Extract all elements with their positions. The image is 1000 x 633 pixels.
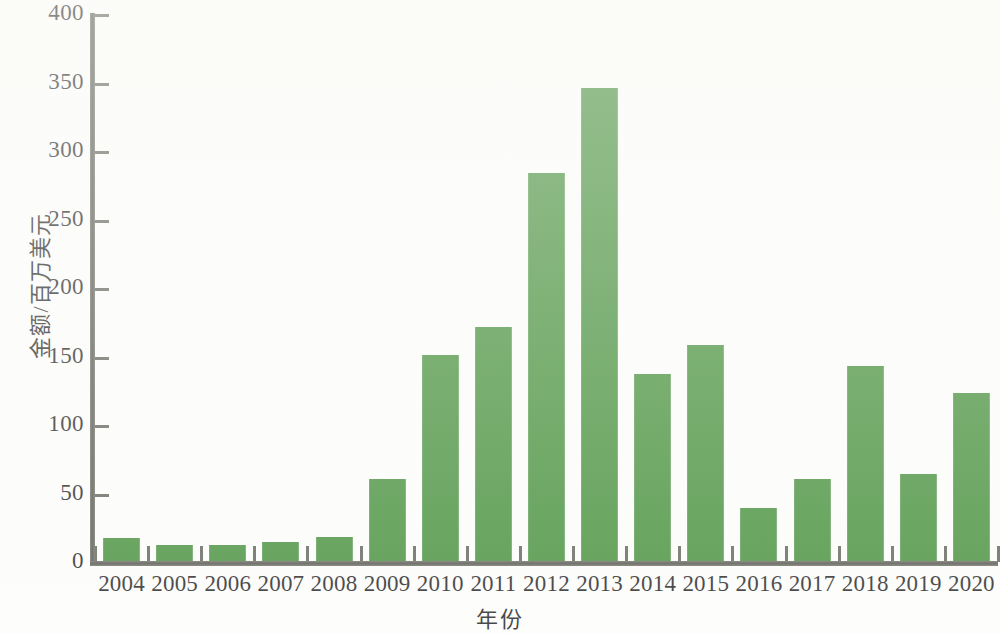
x-tick-13 <box>785 546 788 562</box>
x-axis-label-2013: 2013 <box>573 571 626 597</box>
x-axis-label-2019: 2019 <box>892 571 945 597</box>
bar-2008 <box>316 537 353 563</box>
bar-2017 <box>794 479 831 563</box>
x-axis-label-2014: 2014 <box>626 571 679 597</box>
y-tick-100 <box>95 425 109 428</box>
x-tick-8 <box>519 546 522 562</box>
y-tick-250 <box>95 220 109 223</box>
x-axis-label-2011: 2011 <box>467 571 520 597</box>
y-tick-50 <box>95 494 109 497</box>
y-tick-200 <box>95 288 109 291</box>
bar-2015 <box>687 345 724 563</box>
y-tick-label-slot: 100 <box>14 426 84 427</box>
x-tick-4 <box>306 546 309 562</box>
y-tick-label-slot: 350 <box>14 84 84 85</box>
y-axis-title: 金额/百万美元 <box>22 156 54 416</box>
x-axis-label-2005: 2005 <box>148 571 201 597</box>
y-tick-label-slot: 0 <box>14 563 84 564</box>
y-tick-150 <box>95 357 109 360</box>
x-tick-14 <box>838 546 841 562</box>
bar-2009 <box>369 479 406 563</box>
x-tick-16 <box>944 546 947 562</box>
x-axis-label-2015: 2015 <box>679 571 732 597</box>
bar-2020 <box>953 393 990 563</box>
y-tick-label-400: 400 <box>28 0 84 26</box>
bar-chart: 050100150200250300350400 200420052006200… <box>0 0 1000 633</box>
x-axis-line <box>90 561 998 566</box>
x-axis-label-2017: 2017 <box>786 571 839 597</box>
x-tick-6 <box>413 546 416 562</box>
bar-2018 <box>847 366 884 563</box>
bar-2004 <box>103 538 140 563</box>
y-tick-label-350: 350 <box>28 69 84 95</box>
y-tick-400 <box>95 14 109 17</box>
bar-2012 <box>528 173 565 563</box>
x-axis-label-2020: 2020 <box>945 571 998 597</box>
x-axis-label-2009: 2009 <box>361 571 414 597</box>
x-axis-label-2016: 2016 <box>732 571 785 597</box>
y-tick-label-slot: 300 <box>14 152 84 153</box>
x-axis-label-2008: 2008 <box>307 571 360 597</box>
x-axis-label-2006: 2006 <box>201 571 254 597</box>
x-axis-label-2018: 2018 <box>839 571 892 597</box>
bar-2007 <box>262 542 299 563</box>
x-tick-7 <box>466 546 469 562</box>
x-tick-15 <box>891 546 894 562</box>
x-tick-10 <box>625 546 628 562</box>
x-axis-label-2004: 2004 <box>95 571 148 597</box>
x-axis-label-2010: 2010 <box>414 571 467 597</box>
x-tick-2 <box>200 546 203 562</box>
x-tick-3 <box>253 546 256 562</box>
x-axis-label-2007: 2007 <box>254 571 307 597</box>
x-tick-5 <box>360 546 363 562</box>
y-tick-350 <box>95 83 109 86</box>
y-tick-300 <box>95 151 109 154</box>
bar-2011 <box>475 327 512 563</box>
y-tick-label-slot: 50 <box>14 495 84 496</box>
bar-2010 <box>422 355 459 563</box>
x-axis-title: 年份 <box>0 601 1000 633</box>
bar-2019 <box>900 474 937 563</box>
x-tick-12 <box>731 546 734 562</box>
y-tick-label-0: 0 <box>28 548 84 574</box>
x-tick-11 <box>678 546 681 562</box>
y-tick-label-slot: 400 <box>14 15 84 16</box>
x-axis-label-2012: 2012 <box>520 571 573 597</box>
bar-2013 <box>581 88 618 563</box>
bar-2016 <box>740 508 777 563</box>
y-axis-line <box>90 13 95 566</box>
x-tick-9 <box>572 546 575 562</box>
x-tick-1 <box>147 546 150 562</box>
y-tick-label-50: 50 <box>28 480 84 506</box>
bar-2014 <box>634 374 671 563</box>
